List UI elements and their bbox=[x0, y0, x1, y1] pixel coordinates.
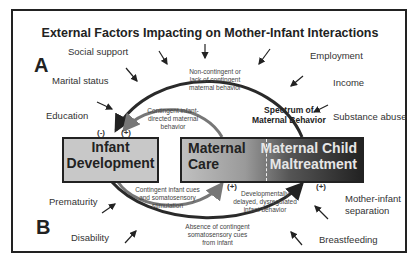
annotation-line: maternal behavior bbox=[176, 84, 254, 92]
sign-positive-care: (+) bbox=[227, 182, 237, 191]
factor-separation-text: Mother-infant separation bbox=[345, 193, 405, 217]
box-line: Maltreatment bbox=[261, 156, 357, 172]
annotation-line: directed maternal bbox=[138, 115, 208, 123]
panel-label-b: B bbox=[36, 216, 50, 239]
box-line: Maternal Child bbox=[261, 140, 357, 156]
annotation-line: Developmentally bbox=[230, 190, 300, 198]
factor-breastfeeding: Breastfeeding bbox=[319, 234, 378, 245]
factor-mother-infant-separation: Mother-infant separation bbox=[345, 193, 405, 217]
diagram-title: External Factors Impacting on Mother-Inf… bbox=[0, 26, 420, 40]
annotation-line: Contingent infant- bbox=[138, 107, 208, 115]
annotation-line: behavior bbox=[138, 123, 208, 131]
box-line: Development bbox=[64, 155, 157, 171]
annotation-developmentally-delayed: Developmentally delayed, dysregulated in… bbox=[230, 190, 300, 213]
factor-employment: Employment bbox=[310, 50, 363, 61]
maternal-care-label: Maternal Care bbox=[188, 140, 246, 172]
annotation-line: and somatosensory bbox=[130, 194, 205, 202]
annotation-line: Contingent infant cues bbox=[130, 186, 205, 194]
annotation-line: Non-contingent or bbox=[176, 68, 254, 76]
factor-disability: Disability bbox=[71, 232, 109, 243]
annotation-line: lack of contingent bbox=[176, 76, 254, 84]
factor-prematurity: Prematurity bbox=[49, 196, 98, 207]
factor-marital-status: Marital status bbox=[52, 75, 109, 86]
annotation-contingent-cues: Contingent infant cues and somatosensory… bbox=[130, 186, 205, 209]
sign-positive-infant: (+) bbox=[121, 128, 131, 137]
sign-negative: (-) bbox=[97, 128, 105, 137]
annotation-line: stimulation bbox=[130, 202, 205, 210]
annotation-contingent-directed: Contingent infant- directed maternal beh… bbox=[138, 107, 208, 130]
factor-income: Income bbox=[333, 77, 364, 88]
spectrum-label: Spectrum of Maternal Behavior bbox=[252, 105, 326, 125]
maternal-spectrum-box: Maternal Care Maternal Child Maltreatmen… bbox=[180, 137, 364, 183]
maltreatment-label: Maternal Child Maltreatment bbox=[261, 140, 357, 172]
infant-development-box: Infant Development bbox=[62, 137, 159, 183]
annotation-line: infant behavior bbox=[230, 206, 300, 214]
factor-education: Education bbox=[46, 110, 88, 121]
annotation-line: Absence of contingent bbox=[180, 223, 255, 231]
box-line: Infant bbox=[64, 139, 157, 155]
spectrum-line: Spectrum of bbox=[252, 105, 326, 115]
box-line: Care bbox=[188, 156, 246, 172]
annotation-absence: Absence of contingent somatosensory cues… bbox=[180, 223, 255, 246]
panel-label-a: A bbox=[34, 54, 48, 77]
annotation-line: from infant bbox=[180, 239, 255, 247]
sign-positive-maltreatment: (+) bbox=[316, 182, 326, 191]
factor-social-support: Social support bbox=[68, 46, 128, 57]
annotation-non-contingent: Non-contingent or lack of contingent mat… bbox=[176, 68, 254, 91]
spectrum-line: Maternal Behavior bbox=[252, 115, 326, 125]
factor-substance-abuse: Substance abuse bbox=[333, 111, 406, 122]
annotation-line: delayed, dysregulated bbox=[230, 198, 300, 206]
annotation-line: somatosensory cues bbox=[180, 231, 255, 239]
box-line: Maternal bbox=[188, 140, 246, 156]
